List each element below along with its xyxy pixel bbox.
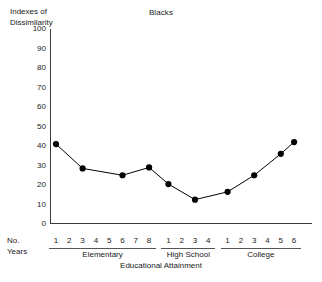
chart-title: Blacks: [0, 8, 322, 17]
data-point: College 5: 36: [278, 151, 284, 157]
group-name: High School: [161, 250, 215, 259]
group-rule: [161, 248, 215, 249]
x-tick-label: 4: [89, 236, 103, 245]
y-tick-label: 30: [22, 161, 46, 170]
x-tick-label: 3: [188, 236, 202, 245]
plot-area: Elementary 1: 41Elementary 3: 28.5Elemen…: [50, 29, 312, 224]
data-point: High School 3: 12.5: [192, 197, 198, 203]
y-tick-row: 30: [22, 161, 46, 171]
y-tick-row: 60: [22, 102, 46, 112]
x-tick-label: 8: [142, 236, 156, 245]
data-point: Elementary 8: 29: [146, 164, 152, 170]
x-axis-caption: Educational Attainment: [0, 261, 322, 270]
y-tick-row: 50: [22, 122, 46, 132]
x-tick-label: 2: [62, 236, 76, 245]
y-tick-label: 0: [22, 219, 46, 228]
group-rule: [49, 248, 156, 249]
data-point: College 6: 42: [291, 139, 297, 145]
group-name: Elementary: [49, 250, 156, 259]
y-tick-row: 80: [22, 63, 46, 73]
y-tick-label: 40: [22, 141, 46, 150]
x-tick-label: 6: [116, 236, 130, 245]
x-tick-label: 7: [129, 236, 143, 245]
data-point: College 1: 16.5: [225, 189, 231, 195]
y-tick-row: 100: [22, 24, 46, 34]
x-tick-label: 1: [49, 236, 63, 245]
y-tick-label: 20: [22, 180, 46, 189]
data-point: Elementary 3: 28.5: [80, 165, 86, 171]
x-tick-label: 1: [161, 236, 175, 245]
x-tick-label: 4: [261, 236, 275, 245]
data-series-svg: Elementary 1: 41Elementary 3: 28.5Elemen…: [50, 29, 312, 224]
chart-figure: Indexes of Dissimilarity Blacks 10090807…: [0, 0, 322, 282]
no-years-corner-label: No. Years: [7, 236, 27, 257]
y-tick-label: 70: [22, 83, 46, 92]
x-tick-label: 2: [175, 236, 189, 245]
y-tick-label: 90: [22, 44, 46, 53]
y-tick-row: 0: [22, 219, 46, 229]
x-tick-label: 5: [274, 236, 288, 245]
y-tick-label: 60: [22, 102, 46, 111]
x-tick-label: 3: [247, 236, 261, 245]
x-tick-label: 6: [287, 236, 301, 245]
y-tick-row: 10: [22, 200, 46, 210]
x-tick-label: 5: [102, 236, 116, 245]
x-tick-label: 2: [234, 236, 248, 245]
y-tick-label: 100: [22, 24, 46, 33]
y-tick-row: 20: [22, 180, 46, 190]
group-rule: [221, 248, 302, 249]
y-tick-label: 50: [22, 122, 46, 131]
group-name: College: [221, 250, 302, 259]
x-tick-label: 3: [76, 236, 90, 245]
series-line: [56, 142, 294, 200]
data-point: Elementary 6: 25: [119, 172, 125, 178]
no-years-line-2: Years: [7, 247, 27, 258]
y-tick-label: 10: [22, 200, 46, 209]
y-tick-row: 70: [22, 83, 46, 93]
no-years-line-1: No.: [7, 236, 27, 247]
y-tick-row: 90: [22, 44, 46, 54]
y-tick-row: 40: [22, 141, 46, 151]
x-tick-label: 1: [221, 236, 235, 245]
y-tick-label: 80: [22, 63, 46, 72]
data-point: Elementary 1: 41: [53, 141, 59, 147]
data-point: High School 1: 20.5: [165, 181, 171, 187]
x-tick-label: 4: [201, 236, 215, 245]
x-axis-tick-labels: 123456781234123456: [0, 236, 322, 248]
data-point: College 3: 25: [251, 172, 257, 178]
